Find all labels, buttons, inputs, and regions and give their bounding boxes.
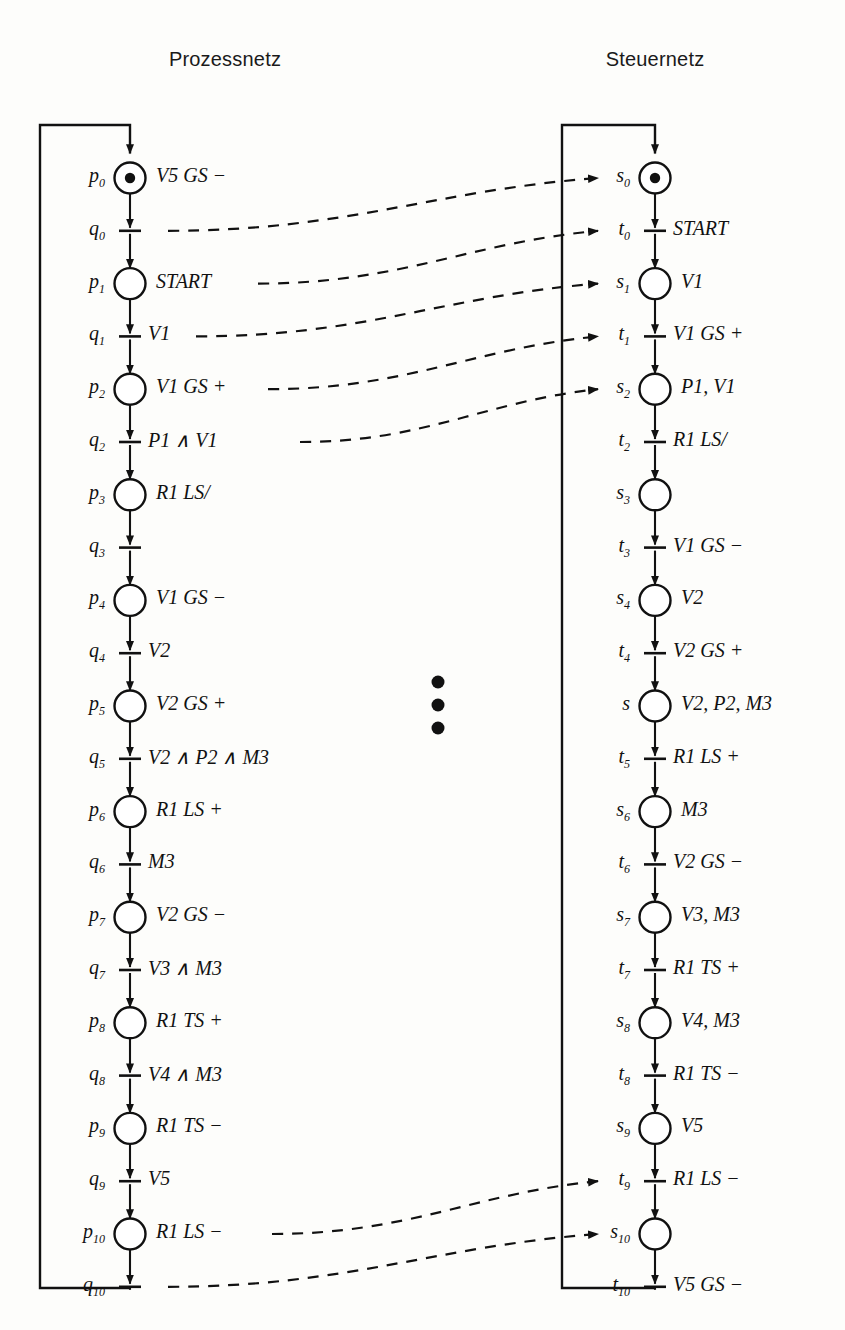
place — [115, 479, 146, 510]
node-identifier: p4 — [35, 586, 105, 613]
place — [640, 585, 671, 616]
interface-arc — [258, 231, 598, 284]
node-identifier: q10 — [35, 1273, 105, 1300]
node-identifier: q8 — [35, 1062, 105, 1089]
node-identifier: t4 — [560, 639, 630, 666]
node-label: V4, M3 — [681, 1009, 740, 1032]
place — [640, 374, 671, 405]
node-identifier: q5 — [35, 745, 105, 772]
interface-arc — [196, 284, 598, 337]
node-label: V2 ∧ P2 ∧ M3 — [148, 745, 269, 769]
ellipsis-dot — [432, 699, 445, 712]
node-identifier: p0 — [35, 164, 105, 191]
node-identifier: s8 — [560, 1009, 630, 1036]
node-identifier: s6 — [560, 798, 630, 825]
place — [115, 374, 146, 405]
node-identifier: t2 — [560, 428, 630, 455]
place — [115, 1219, 146, 1250]
node-label: V4 ∧ M3 — [148, 1062, 222, 1086]
node-label: V5 GS − — [673, 1273, 743, 1296]
node-identifier: t0 — [560, 217, 630, 244]
place — [115, 691, 146, 722]
place — [115, 1113, 146, 1144]
node-label: V2 GS − — [673, 850, 743, 873]
node-identifier: p6 — [35, 798, 105, 825]
node-identifier: s4 — [560, 586, 630, 613]
node-identifier: p9 — [35, 1114, 105, 1141]
place — [115, 585, 146, 616]
place — [115, 796, 146, 827]
node-identifier: s9 — [560, 1114, 630, 1141]
node-identifier: p2 — [35, 375, 105, 402]
place — [640, 796, 671, 827]
node-label: V2 GS − — [156, 903, 226, 926]
place — [640, 1113, 671, 1144]
vertical-ellipsis-dots — [432, 676, 445, 735]
node-identifier: t9 — [560, 1167, 630, 1194]
node-identifier: s2 — [560, 375, 630, 402]
node-identifier: p8 — [35, 1009, 105, 1036]
node-label: R1 LS − — [156, 1220, 223, 1243]
node-label: V2 GS + — [673, 639, 743, 662]
node-identifier: q3 — [35, 534, 105, 561]
node-label: R1 LS/ — [156, 481, 210, 504]
node-label: V2, P2, M3 — [681, 692, 772, 715]
node-label: V1 — [148, 322, 170, 345]
node-identifier: q6 — [35, 850, 105, 877]
node-label: V5 — [148, 1167, 170, 1190]
node-identifier: q0 — [35, 217, 105, 244]
node-label: R1 TS + — [156, 1009, 223, 1032]
node-identifier: q1 — [35, 322, 105, 349]
node-identifier: t7 — [560, 956, 630, 983]
node-label: R1 LS + — [673, 745, 740, 768]
node-label: V5 — [681, 1114, 703, 1137]
token-dot — [125, 173, 135, 183]
node-label: R1 TS + — [673, 956, 740, 979]
node-label: V1 — [681, 270, 703, 293]
node-label: V2 — [148, 639, 170, 662]
node-identifier: s0 — [560, 164, 630, 191]
place — [115, 268, 146, 299]
node-identifier: t1 — [560, 322, 630, 349]
node-label: R1 LS − — [673, 1167, 740, 1190]
ellipsis-dot — [432, 722, 445, 735]
node-identifier: s1 — [560, 270, 630, 297]
node-identifier: t8 — [560, 1062, 630, 1089]
interface-dashed-arcs — [168, 178, 598, 1287]
place — [115, 1007, 146, 1038]
interface-arc — [300, 389, 598, 442]
place — [115, 902, 146, 933]
node-identifier: p5 — [35, 692, 105, 719]
place — [640, 902, 671, 933]
token-dot — [650, 173, 660, 183]
node-label: V1 GS + — [156, 375, 226, 398]
node-identifier: q9 — [35, 1167, 105, 1194]
node-identifier: s3 — [560, 481, 630, 508]
node-label: R1 LS + — [156, 798, 223, 821]
place — [640, 268, 671, 299]
interface-arc — [268, 336, 598, 389]
node-identifier: p10 — [35, 1220, 105, 1247]
node-label: V3 ∧ M3 — [148, 956, 222, 980]
node-label: M3 — [148, 850, 175, 873]
node-label: V1 GS + — [673, 322, 743, 345]
place — [640, 1219, 671, 1250]
interface-arc — [272, 1181, 598, 1234]
node-identifier: s — [560, 692, 630, 715]
place — [640, 479, 671, 510]
node-label: START — [156, 270, 211, 293]
node-label: V2 — [681, 586, 703, 609]
place — [640, 691, 671, 722]
node-label: P1 ∧ V1 — [148, 428, 217, 452]
node-identifier: q7 — [35, 956, 105, 983]
node-identifier: q2 — [35, 428, 105, 455]
node-label: V1 GS − — [673, 534, 743, 557]
node-identifier: s7 — [560, 903, 630, 930]
node-label: V5 GS − — [156, 164, 226, 187]
node-identifier: t5 — [560, 745, 630, 772]
node-identifier: t10 — [560, 1273, 630, 1300]
node-label: P1, V1 — [681, 375, 735, 398]
place — [640, 1007, 671, 1038]
node-identifier: p3 — [35, 481, 105, 508]
ellipsis-dot — [432, 676, 445, 689]
